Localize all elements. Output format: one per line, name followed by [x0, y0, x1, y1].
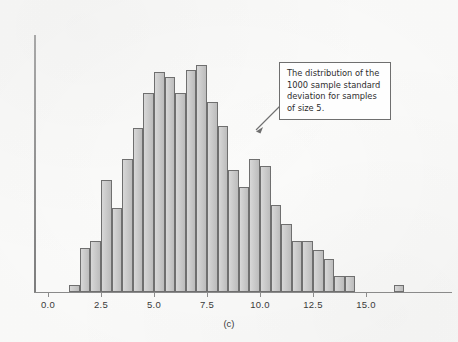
x-tick-mark [154, 292, 155, 297]
x-tick-label: 7.5 [200, 299, 214, 310]
histogram-bar [345, 276, 356, 292]
histogram-bar [302, 241, 313, 292]
x-tick-label: 12.5 [303, 299, 322, 310]
x-tick-mark [260, 292, 261, 297]
histogram-bar [334, 276, 345, 292]
histogram-bar [218, 126, 229, 292]
histogram-bar [394, 285, 405, 292]
histogram-bar [143, 93, 154, 292]
x-tick-label: 5.0 [147, 299, 161, 310]
plot-area: 0.02.55.07.510.012.515.0 [0, 0, 458, 342]
histogram-bar [101, 180, 112, 292]
x-tick-label: 10.0 [250, 299, 269, 310]
x-tick-mark [101, 292, 102, 297]
histogram-bar [186, 70, 197, 292]
histogram-bar [90, 241, 101, 292]
x-tick-label: 15.0 [356, 299, 375, 310]
figure-caption: (c) [0, 318, 458, 329]
annotation-text: The distribution of the 1000 sample stan… [287, 68, 384, 114]
histogram-bar [175, 93, 186, 292]
histogram-bar [260, 166, 271, 292]
histogram-bar [207, 102, 218, 292]
histogram-bar [196, 65, 207, 292]
histogram-bar [292, 241, 303, 292]
histogram-bar [249, 159, 260, 292]
x-tick-mark [48, 292, 49, 297]
histogram-bar [239, 187, 250, 292]
annotation-callout: The distribution of the 1000 sample stan… [279, 62, 391, 120]
x-tick-mark [207, 292, 208, 297]
histogram-bar [271, 205, 282, 292]
figure-histogram: 0.02.55.07.510.012.515.0 The distributio… [0, 0, 458, 342]
x-tick-label: 0.0 [41, 299, 55, 310]
histogram-bar [324, 259, 335, 292]
histogram-bar [133, 128, 144, 292]
histogram-bar [228, 170, 239, 292]
x-tick-mark [366, 292, 367, 297]
y-axis-line [34, 35, 36, 292]
x-tick-mark [313, 292, 314, 297]
histogram-bar [80, 248, 91, 292]
x-tick-label: 2.5 [94, 299, 108, 310]
histogram-bar [69, 285, 80, 292]
histogram-bar [112, 208, 123, 292]
histogram-bar [281, 224, 292, 292]
histogram-bar [165, 77, 176, 292]
histogram-bar [313, 250, 324, 292]
histogram-bar [154, 72, 165, 292]
histogram-bar [122, 159, 133, 292]
